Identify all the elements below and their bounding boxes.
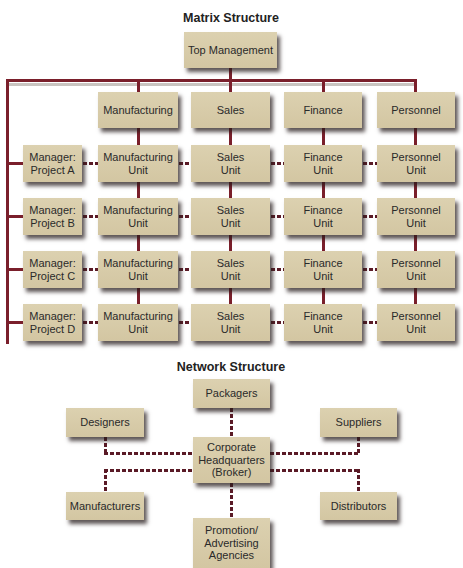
unit-box: Personnel Unit	[377, 198, 455, 235]
top-management-box: Top Management	[184, 32, 277, 68]
suppliers-box: Suppliers	[320, 408, 397, 437]
dept-manufacturing-box: Manufacturing	[98, 92, 178, 128]
manager-label: Manager: Project C	[29, 257, 75, 283]
suppliers-label: Suppliers	[336, 416, 382, 429]
top-management-label: Top Management	[188, 44, 273, 57]
distributors-box: Distributors	[320, 492, 397, 520]
unit-box: Manufacturing Unit	[98, 251, 178, 288]
dept-finance-box: Finance	[284, 92, 362, 128]
network-title: Network Structure	[160, 360, 302, 374]
manager-label: Manager: Project B	[29, 204, 75, 230]
unit-box: Sales Unit	[191, 198, 270, 235]
unit-box: Finance Unit	[284, 304, 362, 341]
unit-box: Finance Unit	[284, 251, 362, 288]
unit-label: Sales Unit	[217, 204, 245, 230]
dept-label: Manufacturing	[103, 104, 173, 117]
manufacturers-label: Manufacturers	[70, 500, 140, 513]
manager-label: Manager: Project A	[29, 151, 75, 177]
cropped-caption	[2, 0, 5, 6]
unit-label: Manufacturing Unit	[103, 151, 173, 177]
unit-box: Sales Unit	[191, 304, 270, 341]
unit-label: Personnel Unit	[391, 151, 441, 177]
unit-box: Personnel Unit	[377, 251, 455, 288]
distributors-label: Distributors	[331, 500, 387, 513]
packagers-label: Packagers	[206, 387, 258, 400]
manager-project-d-box: Manager: Project D	[23, 304, 82, 341]
unit-label: Manufacturing Unit	[103, 204, 173, 230]
dept-label: Finance	[303, 104, 342, 117]
unit-label: Sales Unit	[217, 257, 245, 283]
unit-label: Finance Unit	[303, 151, 342, 177]
dept-label: Personnel	[391, 104, 441, 117]
unit-box: Sales Unit	[191, 145, 270, 182]
unit-label: Personnel Unit	[391, 257, 441, 283]
packagers-box: Packagers	[193, 379, 270, 408]
unit-box: Manufacturing Unit	[98, 304, 178, 341]
unit-label: Personnel Unit	[391, 204, 441, 230]
unit-label: Personnel Unit	[391, 310, 441, 336]
unit-box: Sales Unit	[191, 251, 270, 288]
unit-label: Finance Unit	[303, 257, 342, 283]
corporate-hq-box: Corporate Headquarters (Broker)	[193, 437, 270, 483]
manager-label: Manager: Project D	[29, 310, 75, 336]
manager-project-a-box: Manager: Project A	[23, 145, 82, 182]
unit-label: Sales Unit	[217, 151, 245, 177]
unit-label: Manufacturing Unit	[103, 257, 173, 283]
designers-box: Designers	[66, 408, 144, 437]
unit-box: Manufacturing Unit	[98, 198, 178, 235]
dept-sales-box: Sales	[191, 92, 270, 128]
unit-label: Sales Unit	[217, 310, 245, 336]
dept-personnel-box: Personnel	[377, 92, 455, 128]
unit-box: Finance Unit	[284, 145, 362, 182]
unit-box: Manufacturing Unit	[98, 145, 178, 182]
unit-label: Manufacturing Unit	[103, 310, 173, 336]
unit-box: Personnel Unit	[377, 145, 455, 182]
manager-project-c-box: Manager: Project C	[23, 251, 82, 288]
unit-label: Finance Unit	[303, 204, 342, 230]
corporate-hq-label: Corporate Headquarters (Broker)	[198, 441, 265, 480]
manager-project-b-box: Manager: Project B	[23, 198, 82, 235]
promotion-agencies-box: Promotion/ Advertising Agencies	[193, 518, 270, 568]
manufacturers-box: Manufacturers	[66, 492, 144, 520]
unit-box: Personnel Unit	[377, 304, 455, 341]
unit-box: Finance Unit	[284, 198, 362, 235]
designers-label: Designers	[80, 416, 130, 429]
promotion-agencies-label: Promotion/ Advertising Agencies	[204, 524, 258, 563]
matrix-title: Matrix Structure	[160, 11, 302, 25]
unit-label: Finance Unit	[303, 310, 342, 336]
dept-label: Sales	[217, 104, 245, 117]
